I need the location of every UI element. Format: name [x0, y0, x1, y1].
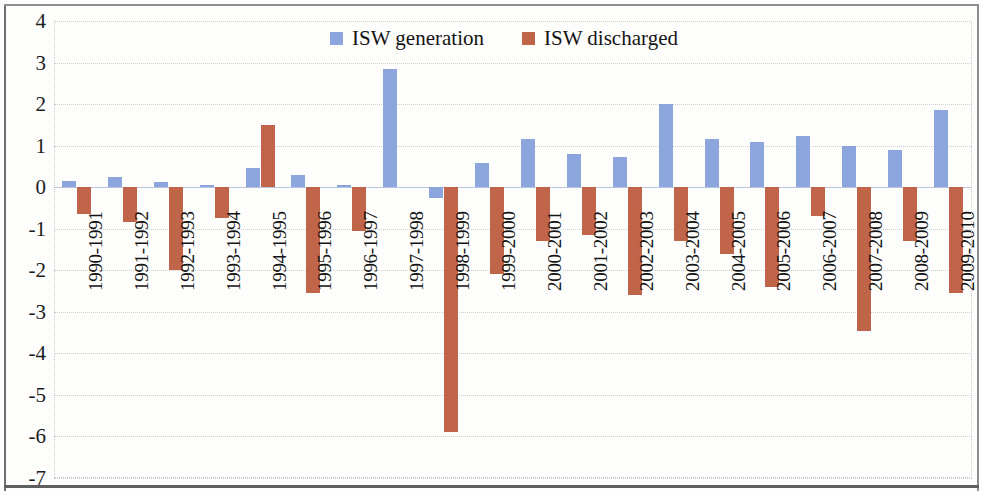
bar-group: 1991-1992 [100, 21, 146, 478]
bar-group: 1990-1991 [54, 21, 100, 478]
y-axis-tick--5: -5 [29, 384, 47, 405]
bar-generation[interactable] [750, 142, 764, 187]
bar-generation[interactable] [154, 182, 168, 187]
bar-generation[interactable] [62, 181, 76, 187]
bar-group: 1994-1995 [238, 21, 284, 478]
bar-group: 2000-2001 [513, 21, 559, 478]
bar-group: 1996-1997 [329, 21, 375, 478]
bar-generation[interactable] [613, 157, 627, 187]
legend-label: ISW discharged [544, 28, 678, 49]
y-axis-tick--7: -7 [29, 468, 47, 489]
gridline--7 [54, 478, 972, 479]
plot-area: 1990-19911991-19921992-19931993-19941994… [54, 21, 972, 478]
bar-group: 2006-2007 [788, 21, 834, 478]
bar-generation[interactable] [659, 104, 673, 187]
bar-generation[interactable] [429, 187, 443, 197]
bar-generation[interactable] [108, 177, 122, 187]
bar-generation[interactable] [521, 139, 535, 187]
bar-series-container: 1990-19911991-19921992-19931993-19941994… [54, 21, 972, 478]
y-axis-tick-0: 0 [36, 177, 47, 198]
bar-generation[interactable] [291, 175, 305, 187]
bar-group: 2007-2008 [834, 21, 880, 478]
bar-generation[interactable] [246, 168, 260, 188]
y-axis-tick--3: -3 [29, 301, 47, 322]
bar-group: 2005-2006 [743, 21, 789, 478]
bar-generation[interactable] [842, 146, 856, 188]
bar-group: 1992-1993 [146, 21, 192, 478]
bar-generation[interactable] [383, 69, 397, 187]
bar-group: 2003-2004 [651, 21, 697, 478]
y-axis-tick-3: 3 [36, 52, 47, 73]
bar-group: 2002-2003 [605, 21, 651, 478]
bar-generation[interactable] [705, 139, 719, 188]
bar-group: 2009-2010 [926, 21, 972, 478]
bar-group: 1998-1999 [421, 21, 467, 478]
page-border-top [4, 4, 979, 6]
y-axis-tick--2: -2 [29, 260, 47, 281]
legend-item[interactable]: ISW discharged [522, 28, 678, 49]
bar-group: 2004-2005 [697, 21, 743, 478]
bar-discharged[interactable] [261, 125, 275, 187]
bar-generation[interactable] [567, 154, 581, 187]
legend-label: ISW generation [352, 28, 484, 49]
page-border-bottom [4, 485, 979, 488]
x-axis-category-label: 2009-2010 [957, 212, 979, 292]
bar-generation[interactable] [337, 185, 351, 187]
chart-legend: ISW generationISW discharged [330, 28, 678, 49]
bar-generation[interactable] [796, 136, 810, 187]
bar-group: 2008-2009 [880, 21, 926, 478]
bar-group: 1995-1996 [284, 21, 330, 478]
bar-generation[interactable] [934, 110, 948, 187]
legend-swatch-generation [330, 32, 343, 45]
y-axis-tick--4: -4 [29, 343, 47, 364]
y-axis-tick-1: 1 [36, 135, 47, 156]
legend-swatch-discharged [522, 32, 535, 45]
y-axis-tick-2: 2 [36, 94, 47, 115]
y-axis: 43210-1-2-3-4-5-6-7 [0, 21, 46, 478]
bar-group: 1993-1994 [192, 21, 238, 478]
y-axis-tick--6: -6 [29, 426, 47, 447]
chart-page: 43210-1-2-3-4-5-6-7 1990-19911991-199219… [0, 0, 983, 495]
y-axis-tick--1: -1 [29, 218, 47, 239]
bar-generation[interactable] [200, 185, 214, 187]
bar-group: 2001-2002 [559, 21, 605, 478]
bar-generation[interactable] [888, 150, 902, 187]
y-axis-tick-4: 4 [36, 11, 47, 32]
legend-item[interactable]: ISW generation [330, 28, 484, 49]
bar-group: 1999-2000 [467, 21, 513, 478]
bar-generation[interactable] [475, 163, 489, 187]
bar-discharged[interactable] [77, 187, 91, 214]
bar-group: 1997-1998 [375, 21, 421, 478]
